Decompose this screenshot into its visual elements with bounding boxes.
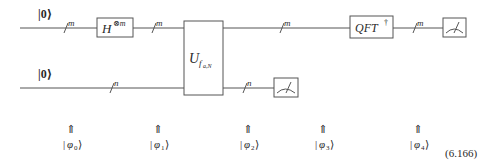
up-double-arrow-icon: ⇑ (153, 123, 162, 135)
ket-angle: ⟩ (165, 138, 169, 150)
ket-angle: ⟩ (255, 138, 259, 150)
state-marker-2: ⇑ | φ 2 ⟩ (240, 123, 259, 152)
measurement-meter-icon-bottom (274, 78, 298, 97)
up-double-arrow-icon: ⇑ (318, 123, 327, 135)
up-double-arrow-icon: ⇑ (66, 123, 75, 135)
qft-dagger-gate: QFT † (350, 16, 393, 38)
state-label: φ (67, 138, 73, 150)
register-label: m (68, 18, 75, 28)
state-marker-1: ⇑ | φ 1 ⟩ (150, 123, 169, 152)
slash-marker-bottom-1: n (110, 78, 119, 93)
hadamard-gate: H ⊗m (97, 18, 133, 37)
state-label: φ (319, 138, 325, 150)
quantum-circuit: |0⟩ |0⟩ m m m m n n H ⊗m U f a,N QFT (0, 0, 502, 167)
ket-bar: | (150, 138, 152, 150)
state-label: φ (154, 138, 160, 150)
slash-marker-top-1: m (64, 18, 75, 33)
register-label: n (114, 78, 119, 88)
register-label: n (247, 78, 252, 88)
state-label: φ (414, 138, 420, 150)
slash-marker-bottom-2: n (243, 78, 252, 93)
up-double-arrow-icon: ⇑ (413, 123, 422, 135)
state-marker-4: ⇑ | φ 4 ⟩ (410, 123, 429, 152)
slash-marker-top-2: m (152, 18, 163, 33)
equation-number: (6.166) (445, 147, 477, 160)
qft-label: QFT (355, 21, 379, 35)
state-marker-0: ⇑ | φ 0 ⟩ (63, 123, 82, 152)
ket-angle: ⟩ (425, 138, 429, 150)
hadamard-label: H (101, 21, 112, 36)
slash-marker-top-3: m (280, 18, 291, 33)
oracle-gate: U f a,N (184, 21, 223, 95)
register-label: m (417, 18, 424, 28)
slash-marker-top-4: m (413, 18, 424, 33)
input-label-bottom: |0⟩ (38, 67, 52, 81)
ket-bar: | (240, 138, 242, 150)
ket-bar: | (410, 138, 412, 150)
state-label: φ (244, 138, 250, 150)
oracle-sub-subscript: a,N (203, 63, 213, 69)
register-label: m (284, 18, 291, 28)
hadamard-superscript: ⊗m (113, 19, 126, 28)
ket-bar: | (315, 138, 317, 150)
ket-angle: ⟩ (78, 138, 82, 150)
up-double-arrow-icon: ⇑ (243, 123, 252, 135)
ket-angle: ⟩ (330, 138, 334, 150)
input-label-top: |0⟩ (38, 7, 52, 21)
register-label: m (156, 18, 163, 28)
ket-bar: | (63, 138, 65, 150)
state-marker-3: ⇑ | φ 3 ⟩ (315, 123, 334, 152)
qft-superscript: † (384, 18, 388, 27)
measurement-meter-icon-top (443, 18, 466, 37)
